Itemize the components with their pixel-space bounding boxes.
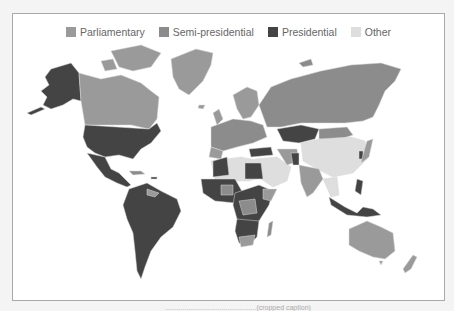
figure-caption: ........................................…	[165, 301, 311, 311]
region-russia	[259, 63, 401, 127]
region-mexico	[87, 153, 131, 187]
region-australia	[349, 221, 395, 259]
region-india	[299, 165, 323, 197]
region-greenland	[171, 49, 213, 95]
region-indonesia	[329, 197, 381, 217]
world-map	[13, 14, 446, 302]
region-turkey	[249, 147, 273, 157]
map-frame: Parliamentary Semi-presidential Presiden…	[12, 13, 445, 301]
region-alaska	[41, 63, 81, 109]
region-south-america	[123, 183, 181, 279]
region-scandinavia	[233, 87, 259, 119]
region-uk	[213, 109, 223, 125]
region-canada	[79, 73, 159, 129]
region-western-europe	[211, 119, 267, 151]
